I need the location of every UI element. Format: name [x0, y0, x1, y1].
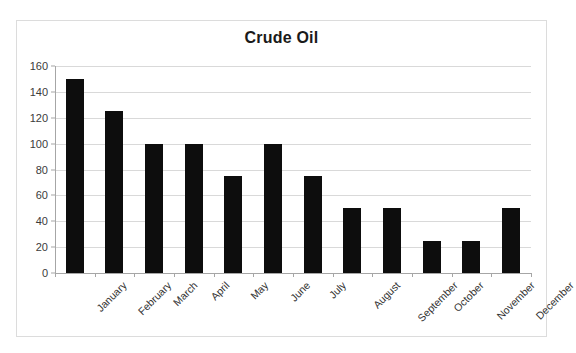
- chart-frame: Crude Oil 020406080100120140160 JanuaryF…: [16, 20, 547, 337]
- bar-february[interactable]: [105, 111, 123, 273]
- y-axis-label: 120: [30, 112, 48, 124]
- y-axis-label: 80: [36, 164, 48, 176]
- bar-july[interactable]: [304, 176, 322, 273]
- bar-october[interactable]: [423, 241, 441, 273]
- x-axis-label-november: November: [494, 279, 537, 322]
- x-axis-label-december: December: [533, 279, 576, 322]
- bar-january[interactable]: [66, 79, 84, 273]
- y-axis-label: 140: [30, 86, 48, 98]
- bar-slot: [452, 66, 492, 273]
- bar-slot: [412, 66, 452, 273]
- bar-slot: [55, 66, 95, 273]
- bar-slot: [174, 66, 214, 273]
- bar-april[interactable]: [185, 144, 203, 273]
- x-axis-label-january: January: [94, 279, 129, 314]
- x-axis-label-april: April: [208, 279, 231, 302]
- bar-series: [55, 66, 531, 273]
- y-axis-label: 160: [30, 60, 48, 72]
- bar-september[interactable]: [383, 208, 401, 273]
- bar-slot: [134, 66, 174, 273]
- chart-title: Crude Oil: [17, 29, 546, 47]
- x-axis-label-june: June: [288, 279, 313, 304]
- bar-november[interactable]: [462, 241, 480, 273]
- bar-august[interactable]: [343, 208, 361, 273]
- bar-may[interactable]: [224, 176, 242, 273]
- bar-slot: [293, 66, 333, 273]
- y-axis-label: 100: [30, 138, 48, 150]
- bar-december[interactable]: [502, 208, 520, 273]
- x-axis-label-may: May: [247, 279, 270, 302]
- bar-june[interactable]: [264, 144, 282, 273]
- y-axis-label: 60: [36, 189, 48, 201]
- x-axis-tick-end: [531, 273, 532, 277]
- bar-slot: [333, 66, 373, 273]
- x-axis-label-february: February: [135, 279, 173, 317]
- x-axis-label-march: March: [171, 279, 200, 308]
- bar-slot: [253, 66, 293, 273]
- bar-slot: [214, 66, 254, 273]
- cut-off-text-sliver: [0, 0, 564, 5]
- y-axis-label: 20: [36, 241, 48, 253]
- y-axis-label: 0: [42, 267, 48, 279]
- bar-slot: [491, 66, 531, 273]
- x-axis-label-august: August: [370, 279, 402, 311]
- plot-area: 020406080100120140160: [55, 66, 531, 273]
- x-axis-label-july: July: [326, 279, 348, 301]
- bar-slot: [95, 66, 135, 273]
- y-axis-label: 40: [36, 215, 48, 227]
- bar-march[interactable]: [145, 144, 163, 273]
- bar-slot: [372, 66, 412, 273]
- x-axis-labels: JanuaryFebruaryMarchAprilMayJuneJulyAugu…: [55, 273, 531, 335]
